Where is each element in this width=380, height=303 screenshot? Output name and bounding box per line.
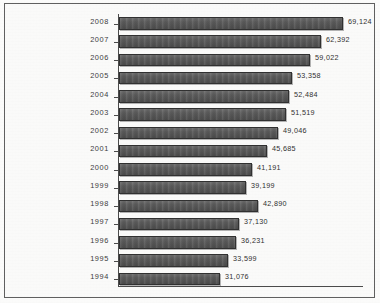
bar [119,17,343,30]
bar [119,236,236,249]
category-label: 1999 [23,181,109,190]
bar [119,127,278,140]
category-label: 2002 [23,126,109,135]
category-label: 2005 [23,71,109,80]
category-label: 2007 [23,35,109,44]
category-label: 2004 [23,90,109,99]
y-axis-tick [114,78,118,79]
y-axis-tick [114,279,118,280]
bar [119,273,220,286]
bar-row: 199939,199 [23,179,366,197]
y-axis-tick [114,151,118,152]
bar-row: 200041,191 [23,161,366,179]
category-label: 1998 [23,199,109,208]
bar-row: 199737,130 [23,215,366,233]
bar [119,54,310,67]
bar [119,108,286,121]
bar-row: 200762,392 [23,33,366,51]
value-label: 36,231 [241,236,265,245]
chart-screenshot: 200869,124200762,392200659,022200553,358… [0,0,380,303]
bar-row: 200659,022 [23,51,366,69]
bar [119,72,292,85]
category-label: 2008 [23,17,109,26]
value-label: 49,046 [283,126,307,135]
plot-area: 200869,124200762,392200659,022200553,358… [23,14,366,293]
category-label: 2006 [23,53,109,62]
value-label: 41,191 [257,163,281,172]
y-axis-tick [114,188,118,189]
value-label: 62,392 [326,35,350,44]
category-label: 2001 [23,144,109,153]
bar-row: 199431,076 [23,270,366,288]
value-label: 45,685 [272,144,296,153]
value-label: 42,890 [263,199,287,208]
bar [119,145,267,158]
bar-row: 199636,231 [23,234,366,252]
category-label: 1997 [23,217,109,226]
value-label: 51,519 [291,108,315,117]
bar [119,35,321,48]
y-axis-tick [114,115,118,116]
value-label: 69,124 [348,17,372,26]
y-axis-tick [114,261,118,262]
y-axis-tick [114,206,118,207]
value-label: 53,358 [297,71,321,80]
bar-row: 200869,124 [23,15,366,33]
category-label: 2003 [23,108,109,117]
bar [119,163,252,176]
bar-row: 200351,519 [23,106,366,124]
chart-frame: 200869,124200762,392200659,022200553,358… [4,3,375,298]
bar [119,218,239,231]
y-axis-tick [114,170,118,171]
bar-row: 199533,599 [23,252,366,270]
bar [119,200,258,213]
category-label: 1994 [23,272,109,281]
y-axis-tick [114,60,118,61]
category-label: 2000 [23,163,109,172]
value-label: 37,130 [244,217,268,226]
bar-row: 200145,685 [23,142,366,160]
value-label: 31,076 [225,272,249,281]
y-axis-tick [114,133,118,134]
category-label: 1996 [23,236,109,245]
value-label: 52,484 [294,90,318,99]
y-axis-tick [114,243,118,244]
value-label: 33,599 [233,254,257,263]
bar [119,90,289,103]
bar-row: 199842,890 [23,197,366,215]
bar-row: 200553,358 [23,69,366,87]
bar-row: 200452,484 [23,88,366,106]
bar-row: 200249,046 [23,124,366,142]
bar [119,181,246,194]
y-axis-tick [114,42,118,43]
y-axis-tick [114,24,118,25]
value-label: 39,199 [251,181,275,190]
y-axis-tick [114,224,118,225]
y-axis-tick [114,97,118,98]
value-label: 59,022 [315,53,339,62]
category-label: 1995 [23,254,109,263]
bar [119,254,228,267]
